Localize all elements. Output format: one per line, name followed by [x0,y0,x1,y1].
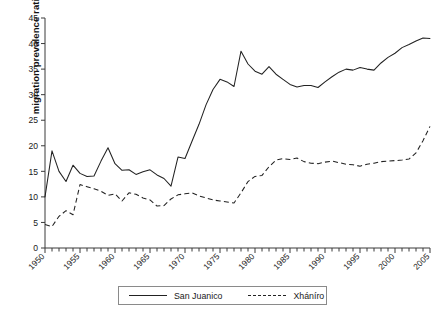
x-tick-label: 2005 [411,251,431,271]
legend-label-xhaniro: Xháníro [293,291,324,301]
y-axis-ticks [41,18,45,248]
x-tick-label: 2000 [376,251,396,271]
y-tick-label: 25 [28,115,38,125]
chart-container: migration prevalence ratio 0510152025303… [0,0,439,312]
x-tick-label: 1990 [306,251,326,271]
x-tick-label: 1960 [96,251,116,271]
y-tick-label: 20 [28,141,38,151]
y-tick-label: 45 [28,13,38,23]
chart-svg: 051015202530354045 195019551960196519701… [0,0,439,312]
legend-swatch-dashed [248,295,286,296]
y-tick-label: 15 [28,167,38,177]
y-tick-label: 40 [28,39,38,49]
series-line-san-juanico [45,38,430,197]
y-tick-label: 30 [28,90,38,100]
legend-swatch-solid [129,295,167,296]
x-axis-ticks [45,248,430,253]
x-tick-label: 1950 [26,251,46,271]
x-tick-label: 1970 [166,251,186,271]
x-tick-label: 1965 [131,251,151,271]
legend-item-san-juanico: San Juanico [129,287,222,304]
legend-label-san-juanico: San Juanico [174,291,222,301]
y-axis-tick-labels: 051015202530354045 [28,13,38,253]
series-line-xhaniro [45,126,430,226]
y-tick-label: 5 [33,218,38,228]
y-tick-label: 0 [33,243,38,253]
x-tick-label: 1995 [341,251,361,271]
y-tick-label: 10 [28,192,38,202]
x-tick-label: 1985 [271,251,291,271]
y-tick-label: 35 [28,64,38,74]
x-axis-tick-labels: 1950195519601965197019751980198519901995… [26,251,431,271]
x-tick-label: 1980 [236,251,256,271]
chart-legend: San Juanico Xháníro [118,286,327,305]
x-tick-label: 1955 [61,251,81,271]
x-tick-label: 1975 [201,251,221,271]
legend-item-xhaniro: Xháníro [248,287,324,304]
